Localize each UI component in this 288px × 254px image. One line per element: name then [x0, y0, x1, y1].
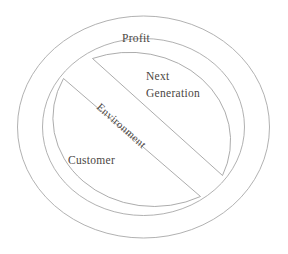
label-next-generation-line1: Next: [146, 70, 170, 82]
label-environment: Environment: [95, 101, 149, 151]
outer-ellipse: [18, 16, 270, 238]
label-profit: Profit: [122, 32, 150, 44]
ring-diagram: Profit Next Generation Customer Environm…: [0, 0, 288, 254]
label-customer: Customer: [68, 154, 115, 166]
diagram-canvas: Profit Next Generation Customer Environm…: [0, 0, 288, 254]
label-next-generation-line2: Generation: [146, 87, 200, 99]
inner-ellipse: [43, 39, 245, 216]
